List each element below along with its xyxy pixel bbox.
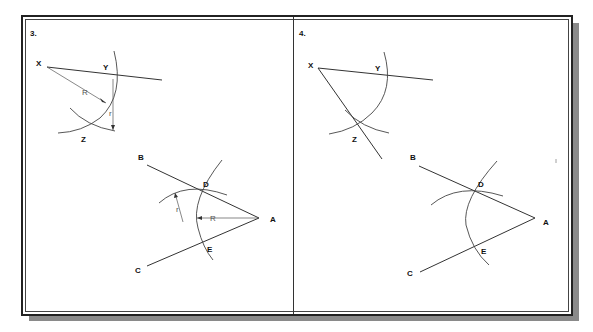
point-B-label: B	[138, 153, 144, 162]
arrowhead-icon	[100, 98, 106, 103]
dimension-r-label: r	[109, 109, 112, 118]
point-Y-label: Y	[103, 63, 109, 72]
point-D-label: D	[203, 180, 209, 189]
arrowhead-icon	[197, 216, 202, 220]
dimension-R-label: R	[82, 88, 88, 97]
point-Z-label: Z	[81, 135, 86, 144]
point-Y-label: Y	[375, 64, 381, 73]
line-ba	[147, 165, 259, 218]
point-D-label: D	[478, 180, 484, 189]
point-Z-label: Z	[352, 135, 357, 144]
arc-radius-r	[345, 110, 389, 133]
line-ca	[147, 218, 259, 266]
point-A-label: A	[543, 218, 549, 227]
line-xz	[318, 68, 382, 159]
arc-radius-r-through-D	[431, 191, 503, 205]
point-A-label: A	[270, 215, 276, 224]
line-ba	[419, 166, 535, 218]
panel-4-number: 4.	[299, 29, 306, 38]
arc-radius-r-through-D	[159, 189, 227, 203]
panel-4: 4. X Y Z B C D E A	[299, 29, 556, 278]
point-X-label: X	[308, 61, 314, 70]
panel-3-number: 3.	[30, 29, 37, 38]
arrowhead-icon	[111, 125, 115, 130]
point-E-label: E	[481, 247, 487, 256]
point-B-label: B	[410, 153, 416, 162]
line-ca	[420, 218, 535, 272]
point-X-label: X	[36, 59, 42, 68]
dimension-R-label-A: R	[210, 214, 216, 223]
arrowhead-icon	[174, 193, 178, 198]
point-C-label: C	[407, 269, 413, 278]
dimension-r-label-A: r	[176, 205, 179, 214]
point-E-label: E	[207, 245, 213, 254]
panel-3: 3. R r X Y Z R r B C D E A	[30, 29, 276, 275]
point-C-label: C	[135, 266, 141, 275]
construction-diagram: 3. R r X Y Z R r B C D E A 4.	[0, 0, 593, 332]
